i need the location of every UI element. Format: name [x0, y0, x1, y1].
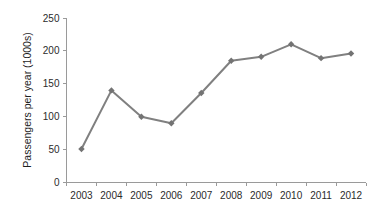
x-tick-label: 2008: [220, 190, 243, 201]
x-tick-label: 2006: [160, 190, 183, 201]
y-tick-label: 150: [43, 78, 60, 89]
y-axis-label: Passengers per year (1000s): [21, 32, 33, 167]
x-tick-label: 2004: [100, 190, 123, 201]
y-tick-label: 0: [54, 177, 60, 188]
x-tick-label: 2009: [250, 190, 273, 201]
y-tick-label: 50: [48, 144, 60, 155]
line-chart: 050100150200250 200320042005200620072008…: [0, 0, 377, 215]
x-tick-label: 2005: [130, 190, 153, 201]
y-tick-label: 200: [43, 45, 60, 56]
x-tick-label: 2011: [310, 190, 332, 201]
x-tick-label: 2007: [190, 190, 213, 201]
x-tick-label: 2003: [70, 190, 93, 201]
y-tick-label: 250: [43, 13, 60, 24]
chart-canvas: 050100150200250 200320042005200620072008…: [0, 0, 377, 215]
x-tick-label: 2010: [280, 190, 303, 201]
y-tick-label: 100: [43, 111, 60, 122]
x-tick-label: 2012: [340, 190, 363, 201]
